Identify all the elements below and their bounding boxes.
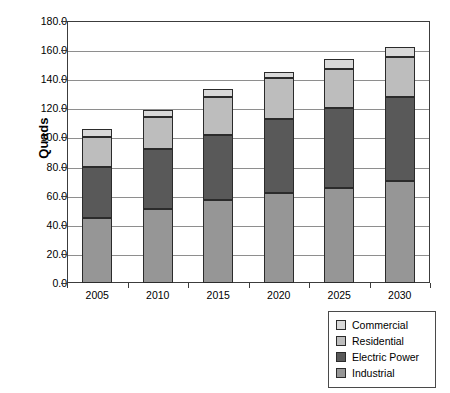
- bar-segment[interactable]: [385, 97, 415, 181]
- y-tick-label: 0.0: [9, 278, 67, 288]
- legend-label: Electric Power: [352, 352, 419, 363]
- x-tick-mark: [188, 283, 189, 288]
- legend-label: Residential: [352, 336, 404, 347]
- x-tick-mark: [430, 283, 431, 288]
- x-tick-mark: [249, 283, 250, 288]
- bar-stack: [324, 59, 354, 283]
- bar-segment[interactable]: [82, 137, 112, 166]
- x-axis-ticks: 200520102015202020252030: [67, 283, 430, 307]
- y-tick-label: 160.0: [9, 45, 67, 55]
- legend-item[interactable]: Electric Power: [336, 349, 429, 365]
- x-tick-label: 2010: [128, 289, 188, 301]
- y-tick-label: 80.0: [9, 162, 67, 172]
- x-tick-mark: [128, 283, 129, 288]
- y-tick-label: 180.0: [9, 16, 67, 26]
- bar-stack: [385, 47, 415, 283]
- legend-label: Industrial: [352, 368, 395, 379]
- legend-item[interactable]: Commercial: [336, 317, 429, 333]
- chart-legend: CommercialResidentialElectric PowerIndus…: [328, 311, 436, 388]
- x-tick-mark: [370, 283, 371, 288]
- legend-swatch: [336, 320, 346, 330]
- bar-group[interactable]: [143, 21, 173, 283]
- bar-segment[interactable]: [385, 57, 415, 96]
- bar-group[interactable]: [264, 21, 294, 283]
- bar-segment[interactable]: [264, 78, 294, 119]
- bar-segment[interactable]: [82, 129, 112, 138]
- bar-segment[interactable]: [385, 181, 415, 283]
- bar-segment[interactable]: [143, 209, 173, 283]
- x-tick-label: 2020: [249, 289, 309, 301]
- bar-segment[interactable]: [264, 119, 294, 193]
- bar-segment[interactable]: [82, 167, 112, 218]
- y-tick-label: 140.0: [9, 74, 67, 84]
- stacked-bar-chart: Quads 0.020.040.060.080.0100.0120.0140.0…: [0, 0, 450, 393]
- x-tick-label: 2015: [188, 289, 248, 301]
- bar-segment[interactable]: [203, 200, 233, 283]
- bar-segment[interactable]: [143, 117, 173, 149]
- bar-stack: [143, 110, 173, 283]
- legend-swatch: [336, 352, 346, 362]
- bar-segment[interactable]: [264, 72, 294, 78]
- y-tick-label: 20.0: [9, 249, 67, 259]
- legend-swatch: [336, 336, 346, 346]
- x-tick-mark: [309, 283, 310, 288]
- y-tick-label: 60.0: [9, 191, 67, 201]
- bar-segment[interactable]: [143, 110, 173, 117]
- bar-segment[interactable]: [264, 193, 294, 283]
- bar-group[interactable]: [324, 21, 354, 283]
- bar-stack: [203, 89, 233, 283]
- legend-swatch: [336, 368, 346, 378]
- legend-label: Commercial: [352, 320, 408, 331]
- x-tick-label: 2005: [67, 289, 127, 301]
- y-tick-label: 40.0: [9, 220, 67, 230]
- bar-segment[interactable]: [324, 69, 354, 108]
- y-axis-ticks: 0.020.040.060.080.0100.0120.0140.0160.01…: [0, 0, 67, 393]
- bar-segment[interactable]: [82, 218, 112, 284]
- bar-segment[interactable]: [203, 97, 233, 135]
- bar-stack: [264, 72, 294, 283]
- bar-segment[interactable]: [324, 188, 354, 283]
- legend-item[interactable]: Residential: [336, 333, 429, 349]
- bar-group[interactable]: [385, 21, 415, 283]
- bar-segment[interactable]: [385, 47, 415, 57]
- y-tick-label: 120.0: [9, 103, 67, 113]
- y-tick-label: 100.0: [9, 132, 67, 142]
- bar-stack: [82, 129, 112, 283]
- bar-group[interactable]: [203, 21, 233, 283]
- bar-group[interactable]: [82, 21, 112, 283]
- legend-item[interactable]: Industrial: [336, 365, 429, 381]
- bar-segment[interactable]: [143, 149, 173, 209]
- bar-segment[interactable]: [203, 135, 233, 201]
- bars-layer: [67, 21, 430, 283]
- x-tick-label: 2025: [309, 289, 369, 301]
- bar-segment[interactable]: [324, 108, 354, 188]
- x-tick-mark: [67, 283, 68, 288]
- bar-segment[interactable]: [203, 89, 233, 96]
- x-tick-label: 2030: [370, 289, 430, 301]
- bar-segment[interactable]: [324, 59, 354, 69]
